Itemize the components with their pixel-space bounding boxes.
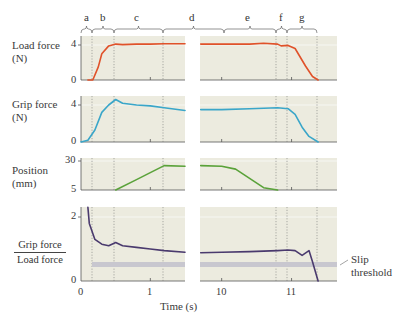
ytick-grip-bottom: 0 xyxy=(71,135,76,146)
figure-plot xyxy=(0,0,405,323)
segment-b: b xyxy=(100,11,106,23)
ytick-ratio-bottom: 0 xyxy=(71,274,76,285)
segment-g: g xyxy=(299,11,305,23)
panel-label-load: Load force(N) xyxy=(12,39,60,65)
ytick-pos-top: 30 xyxy=(65,154,76,165)
segment-e: e xyxy=(245,11,250,23)
xtick-0: 0 xyxy=(78,286,83,297)
ytick-grip-top: 4 xyxy=(71,98,76,109)
panel-label-ratio: Grip force Load force xyxy=(14,238,66,266)
slip-threshold-label: Slipthreshold xyxy=(351,253,392,279)
panel-label-position: Position(mm) xyxy=(12,164,48,190)
ytick-load-top: 4 xyxy=(71,38,76,49)
segment-f: f xyxy=(279,11,283,23)
x-axis-label: Time (s) xyxy=(160,300,197,312)
xtick-1: 1 xyxy=(147,286,152,297)
xtick-11: 11 xyxy=(286,286,296,297)
ytick-load-bottom: 0 xyxy=(71,74,76,85)
segment-a: a xyxy=(84,11,89,23)
panel-label-grip: Grip force(N) xyxy=(12,98,58,124)
ytick-pos-bottom: 5 xyxy=(71,183,76,194)
segment-d: d xyxy=(189,11,195,23)
xtick-10: 10 xyxy=(216,286,227,297)
segment-c: c xyxy=(134,11,139,23)
ytick-ratio-top: 2 xyxy=(71,210,76,221)
